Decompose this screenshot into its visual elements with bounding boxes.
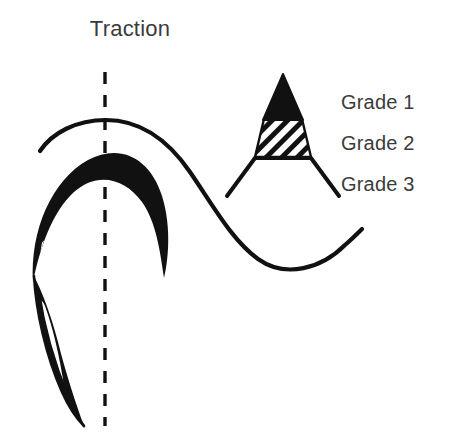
- traction-grade-figure: Traction Grade 1 Grade 2 Grade 3: [0, 0, 450, 444]
- legend-item-grade-1: Grade 1: [341, 82, 450, 123]
- page-title: Traction: [0, 16, 260, 42]
- grade-triangle-key: [227, 74, 339, 196]
- key-grade-2-band: [255, 119, 311, 157]
- figure-canvas: [0, 0, 450, 444]
- legend-item-grade-2: Grade 2: [341, 123, 450, 164]
- crescent-hatch-band: [4, 209, 199, 404]
- lower-tail-sliver: [34, 276, 84, 426]
- key-grade-1-apex: [263, 74, 303, 120]
- legend: Grade 1 Grade 2 Grade 3: [341, 82, 450, 205]
- legend-item-grade-3: Grade 3: [341, 164, 450, 205]
- outer-s-curve: [40, 120, 362, 269]
- key-grade-3-legs: [227, 158, 339, 196]
